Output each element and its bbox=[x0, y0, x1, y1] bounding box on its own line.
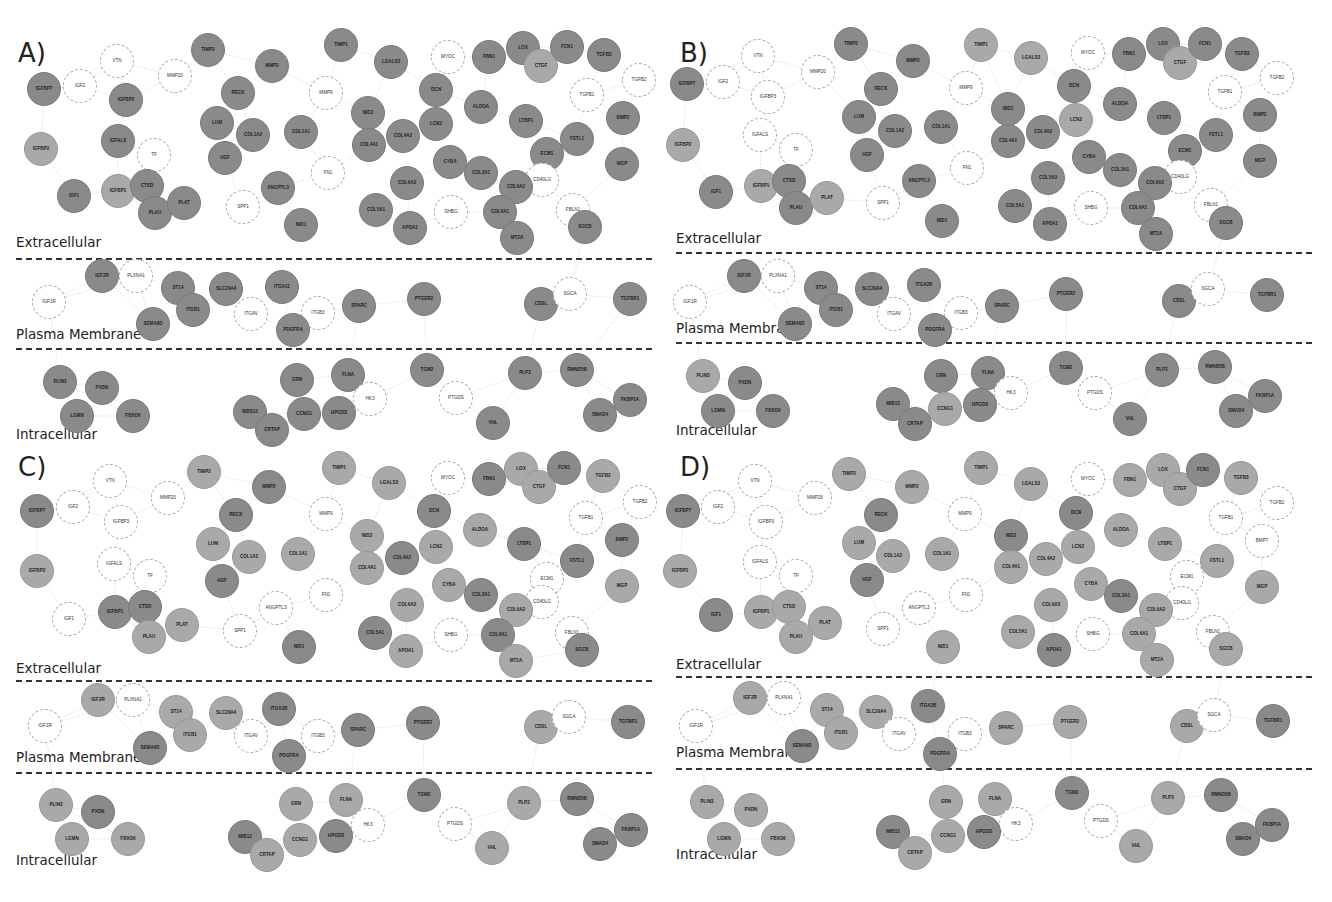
gene-node-mmp9: MMP9 bbox=[309, 76, 343, 110]
panel-label: A) bbox=[18, 38, 46, 68]
gene-node-sgcb: SGCB bbox=[1209, 632, 1243, 666]
gene-node-tgm2: TGM2 bbox=[407, 778, 441, 812]
gene-node-cyba: CYBA bbox=[432, 568, 466, 602]
region-label-extracellular: Extracellular bbox=[676, 656, 761, 672]
gene-node-fkbp1a: FKBP1A bbox=[613, 383, 647, 417]
gene-node-grn: GRN bbox=[924, 359, 958, 393]
gene-node-lgmn: LGMN bbox=[55, 822, 89, 856]
gene-node-igf1: IGF1 bbox=[699, 175, 733, 209]
gene-node-vtn: VTN bbox=[738, 464, 772, 498]
gene-node-pxdn: PXDN bbox=[81, 795, 115, 829]
gene-node-spp1: SPP1 bbox=[866, 612, 900, 646]
gene-node-ptger2: PTGER2 bbox=[407, 282, 441, 316]
region-divider bbox=[676, 252, 1312, 254]
gene-node-sparc: SPARC bbox=[342, 289, 376, 323]
network-panel-d: D) Extracellular Plasma Membrane Intrace… bbox=[660, 450, 1326, 890]
gene-node-fstl1: FSTL1 bbox=[560, 544, 594, 578]
gene-node-rmnd5b: RMND5B bbox=[1204, 778, 1238, 812]
gene-node-fkbp1a: FKBP1A bbox=[1248, 379, 1282, 413]
gene-node-crtap: CRTAP bbox=[250, 838, 284, 872]
gene-node-mmp20: MMP20 bbox=[151, 481, 185, 515]
gene-node-mmp2: MMP2 bbox=[255, 49, 289, 83]
gene-node-col1a2: COL1A2 bbox=[876, 539, 910, 573]
gene-node-igfals: IGFALS bbox=[743, 545, 777, 579]
gene-node-fbxo6: FBXO6 bbox=[116, 399, 150, 433]
gene-node-col4a1: COL4A1 bbox=[991, 124, 1025, 158]
gene-node-tf: TF bbox=[137, 138, 171, 172]
gene-node-sgcb: SGCB bbox=[568, 210, 602, 244]
gene-node-tgfb3: TGFB3 bbox=[1224, 461, 1258, 495]
gene-node-col1a2: COL1A2 bbox=[232, 540, 266, 574]
gene-node-tgfbr1: TGFBR1 bbox=[1256, 704, 1290, 738]
region-label-intracellular: Intracellular bbox=[16, 852, 97, 868]
gene-node-col1a1: COL1A1 bbox=[924, 110, 958, 144]
gene-node-ltbp1: LTBP1 bbox=[1148, 527, 1182, 561]
gene-node-reck: RECK bbox=[864, 72, 898, 106]
gene-node-lgmn: LGMN bbox=[707, 822, 741, 856]
gene-node-hk3: HK3 bbox=[999, 807, 1033, 841]
gene-node-nid2: NID2 bbox=[994, 519, 1028, 553]
gene-node-aldoa: ALDOA bbox=[1104, 513, 1138, 547]
gene-node-itgb1: ITGB1 bbox=[176, 293, 210, 327]
gene-node-angptl3: ANGPTL3 bbox=[261, 171, 295, 205]
gene-node-sgca: SGCA bbox=[552, 700, 586, 734]
gene-node-mmp9: MMP9 bbox=[949, 71, 983, 105]
gene-node-lum: LUM bbox=[196, 527, 230, 561]
gene-node-angptl3: ANGPTL3 bbox=[902, 164, 936, 198]
gene-node-smad4: SMAD4 bbox=[583, 827, 617, 861]
gene-node-fbn1: FBN1 bbox=[1112, 37, 1146, 71]
gene-node-lum: LUM bbox=[200, 106, 234, 140]
gene-node-col6a3: COL6A3 bbox=[390, 588, 424, 622]
gene-node-fbxo6: FBXO6 bbox=[111, 822, 145, 856]
gene-node-angptl3: ANGPTL3 bbox=[902, 591, 936, 625]
gene-node-igf1: IGF1 bbox=[52, 602, 86, 636]
gene-node-fstl1: FSTL1 bbox=[560, 122, 594, 156]
gene-node-shbg: SHBG bbox=[434, 618, 468, 652]
gene-node-plxna1: PLXNA1 bbox=[767, 681, 801, 715]
gene-node-mt2a: MT2A bbox=[1139, 217, 1173, 251]
gene-node-pdgfra: PDGFRA bbox=[918, 313, 952, 347]
gene-node-mt2a: MT2A bbox=[499, 644, 533, 678]
gene-node-apoa1: APOA1 bbox=[1037, 633, 1071, 667]
gene-node-lcn2: LCN2 bbox=[419, 107, 453, 141]
gene-node-col1a1: COL1A1 bbox=[925, 537, 959, 571]
gene-node-ccng1: CCNG1 bbox=[287, 397, 321, 431]
gene-node-ccng1: CCNG1 bbox=[931, 819, 965, 853]
gene-node-plxna1: PLXNA1 bbox=[119, 259, 153, 293]
gene-node-plp2: PLP2 bbox=[508, 356, 542, 390]
gene-node-mgp: MGP bbox=[1243, 144, 1277, 178]
gene-node-fcn1: FCN1 bbox=[547, 451, 581, 485]
gene-node-apoa1: APOA1 bbox=[389, 634, 423, 668]
gene-node-sparc: SPARC bbox=[341, 713, 375, 747]
gene-node-vtn: VTN bbox=[100, 44, 134, 78]
gene-node-igf1: IGF1 bbox=[699, 598, 733, 632]
gene-node-plat: PLAT bbox=[810, 181, 844, 215]
gene-node-reck: RECK bbox=[219, 498, 253, 532]
gene-node-col1a2: COL1A2 bbox=[236, 118, 270, 152]
gene-node-igfals: IGFALS bbox=[101, 124, 135, 158]
gene-node-hgf: HGF bbox=[850, 138, 884, 172]
panel-label: B) bbox=[680, 38, 708, 68]
gene-node-tf: TF bbox=[779, 133, 813, 167]
gene-node-lgals3: LGALS3 bbox=[1014, 41, 1048, 75]
gene-node-tgfbr1: TGFBR1 bbox=[1250, 278, 1284, 312]
gene-node-pdgfra: PDGFRA bbox=[272, 739, 306, 773]
gene-node-plp2: PLP2 bbox=[1145, 353, 1179, 387]
gene-node-tgfb1: TGFB1 bbox=[1208, 75, 1242, 109]
gene-node-hpgds: HPGDS bbox=[319, 819, 353, 853]
gene-node-vhl: VHL bbox=[1119, 829, 1153, 863]
gene-node-fn1: FN1 bbox=[949, 578, 983, 612]
gene-node-tgm2: TGM2 bbox=[410, 353, 444, 387]
gene-node-mmp2: MMP2 bbox=[896, 44, 930, 78]
region-label-plasma-membrane: Plasma Membrane bbox=[676, 744, 801, 760]
gene-node-timp1: TIMP1 bbox=[964, 451, 998, 485]
gene-node-slc29a4: SLC29A4 bbox=[209, 272, 243, 306]
gene-node-ptger2: PTGER2 bbox=[406, 706, 440, 740]
gene-node-tgfb1: TGFB1 bbox=[1209, 501, 1243, 535]
gene-node-tgfbr1: TGFBR1 bbox=[613, 282, 647, 316]
gene-node-plp2: PLP2 bbox=[507, 786, 541, 820]
gene-node-myoc: MYOC bbox=[1071, 462, 1105, 496]
gene-node-lgals3: LGALS3 bbox=[374, 45, 408, 79]
region-label-extracellular: Extracellular bbox=[16, 234, 101, 250]
gene-node-igfbp2: IGFBP2 bbox=[24, 132, 58, 166]
